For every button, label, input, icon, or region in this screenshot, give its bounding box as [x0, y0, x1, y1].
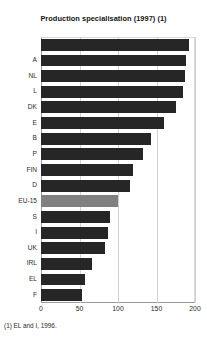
- y-axis-label-B: B: [0, 135, 37, 142]
- bar-row: [41, 195, 195, 207]
- bar-row: [41, 227, 195, 239]
- bar-B: [41, 133, 151, 145]
- y-axis-label-EU-15: EU-15: [0, 198, 37, 205]
- bar-D: [41, 180, 130, 192]
- y-axis-label-D: D: [0, 182, 37, 189]
- y-axis-label-S: S: [0, 214, 37, 221]
- bar-row: [41, 101, 195, 113]
- bar-P: [41, 148, 143, 160]
- bar-E: [41, 117, 164, 129]
- y-axis-label-NL: NL: [0, 73, 37, 80]
- plot-area: [41, 37, 195, 303]
- bar-F: [41, 289, 82, 301]
- y-axis-label-L: L: [0, 88, 37, 95]
- y-axis-label-IRL: IRL: [0, 260, 37, 267]
- bar-row: [41, 39, 195, 51]
- bar-S: [41, 211, 110, 223]
- x-tick-label-100: 100: [112, 305, 123, 312]
- y-axis-label-FIN: FIN: [0, 167, 37, 174]
- bar-A: [41, 55, 186, 67]
- bar-row: [41, 70, 195, 82]
- bar-row: [41, 274, 195, 286]
- bar-row: [41, 148, 195, 160]
- bar-FIN: [41, 164, 133, 176]
- bar-row: [41, 86, 195, 98]
- y-axis-label-A: A: [0, 57, 37, 64]
- bar-DK: [41, 101, 176, 113]
- x-tick-label-200: 200: [189, 305, 200, 312]
- bar-row: [41, 55, 195, 67]
- bar-EL: [41, 274, 85, 286]
- bar-row: [41, 289, 195, 301]
- bar-EU-15: [41, 195, 118, 207]
- bar-row: [41, 180, 195, 192]
- bar-row: [41, 133, 195, 145]
- bar-row: [41, 117, 195, 129]
- chart-figure: Production specialisation (1997) (1) ANL…: [0, 0, 207, 339]
- bar-unlabeled: [41, 39, 189, 51]
- x-tick-label-50: 50: [76, 305, 84, 312]
- bar-row: [41, 242, 195, 254]
- chart-title: Production specialisation (1997) (1): [0, 14, 207, 23]
- bar-rows: [41, 37, 195, 303]
- y-axis-label-P: P: [0, 151, 37, 158]
- x-tick-label-150: 150: [151, 305, 162, 312]
- x-tick-label-0: 0: [39, 305, 43, 312]
- y-axis-label-DK: DK: [0, 104, 37, 111]
- y-axis-labels: ANLLDKEBPFINDEU-15SIUKIRLELF: [0, 37, 39, 303]
- chart-footnote: (1) EL and I, 1996.: [4, 322, 57, 329]
- bar-IRL: [41, 258, 92, 270]
- y-axis-label-EL: EL: [0, 276, 37, 283]
- bar-row: [41, 164, 195, 176]
- gridline-200: [195, 37, 196, 303]
- bar-row: [41, 258, 195, 270]
- y-axis-label-E: E: [0, 120, 37, 127]
- y-axis-label-I: I: [0, 229, 37, 236]
- bar-L: [41, 86, 183, 98]
- y-axis-label-UK: UK: [0, 245, 37, 252]
- bar-I: [41, 227, 108, 239]
- y-axis-label-F: F: [0, 292, 37, 299]
- bar-row: [41, 211, 195, 223]
- x-axis-ticks: 050100150200: [0, 305, 207, 317]
- bar-NL: [41, 70, 185, 82]
- bar-UK: [41, 242, 105, 254]
